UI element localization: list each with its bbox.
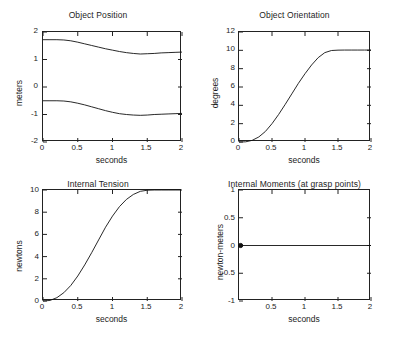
y-tick-label: -1 bbox=[19, 109, 38, 118]
x-tick-label: 2 bbox=[173, 302, 189, 311]
y-tick-label: 12 bbox=[216, 26, 235, 35]
x-tick-label: 1.5 bbox=[135, 302, 157, 311]
x-tick-label: 1.5 bbox=[326, 302, 348, 311]
x-tick-label: 0 bbox=[230, 143, 246, 152]
origin-marker bbox=[239, 243, 243, 247]
subplot-object-orientation: Object Orientation degrees 12 10 8 6 4 2… bbox=[196, 10, 393, 168]
series-curve-orientation bbox=[239, 50, 371, 142]
y-tick-label: 4 bbox=[23, 252, 39, 261]
y-axis-ticks bbox=[239, 32, 371, 142]
x-tick-label: 1.5 bbox=[326, 143, 348, 152]
plot-area bbox=[238, 189, 370, 300]
x-axis-label: seconds bbox=[42, 314, 181, 324]
x-tick-label: 0.5 bbox=[66, 302, 88, 311]
y-axis-ticks bbox=[43, 190, 182, 301]
x-tick-label: 2 bbox=[362, 143, 378, 152]
y-axis-label: degrees bbox=[210, 67, 220, 119]
y-tick-label: 10 bbox=[216, 44, 235, 53]
x-tick-label: 0.5 bbox=[260, 143, 282, 152]
x-axis-label: seconds bbox=[238, 314, 370, 324]
x-axis-label: seconds bbox=[42, 155, 181, 165]
plot-svg bbox=[43, 32, 182, 142]
y-tick-label: 2 bbox=[23, 274, 39, 283]
x-tick-label: 1 bbox=[104, 302, 120, 311]
y-tick-label: 4 bbox=[219, 99, 235, 108]
y-tick-label: 8 bbox=[219, 63, 235, 72]
x-axis-label: seconds bbox=[238, 155, 370, 165]
plot-svg bbox=[43, 190, 182, 301]
y-tick-label: 2 bbox=[22, 26, 38, 35]
x-tick-label: 2 bbox=[173, 143, 189, 152]
x-tick-label: 1.5 bbox=[135, 143, 157, 152]
x-tick-label: 2 bbox=[362, 302, 378, 311]
y-tick-label: 0 bbox=[22, 81, 38, 90]
y-tick-label: 2 bbox=[219, 118, 235, 127]
plot-area bbox=[42, 31, 181, 141]
x-tick-label: 0 bbox=[34, 302, 50, 311]
x-tick-label: 0.5 bbox=[260, 302, 282, 311]
subplot-internal-moments: Internal Moments (at grasp points) newto… bbox=[196, 179, 393, 337]
series-curve-lower bbox=[43, 101, 182, 116]
y-tick-label: -1 bbox=[216, 296, 235, 305]
y-axis-label: newton-meters bbox=[215, 213, 225, 291]
x-tick-label: 0.5 bbox=[66, 143, 88, 152]
y-tick-label: 6 bbox=[23, 229, 39, 238]
subplot-title: Object Orientation bbox=[196, 10, 393, 20]
y-tick-label: 0 bbox=[219, 241, 235, 250]
series-curve-upper bbox=[43, 40, 182, 54]
x-axis-ticks bbox=[239, 32, 371, 142]
x-axis-ticks bbox=[43, 32, 182, 142]
y-tick-label: 0.5 bbox=[213, 213, 235, 222]
plot-area bbox=[238, 31, 370, 141]
plot-svg bbox=[239, 32, 371, 142]
plot-svg bbox=[239, 190, 371, 301]
x-tick-label: 0 bbox=[34, 143, 50, 152]
y-tick-label: 6 bbox=[219, 81, 235, 90]
subplot-internal-tension: Internal Tension newtons 10 8 6 4 2 0 bbox=[0, 179, 196, 337]
y-axis-ticks bbox=[43, 32, 182, 142]
y-tick-label: 10 bbox=[20, 185, 39, 194]
subplot-object-position: Object Position meters 2 1 0 -1 -2 bbox=[0, 10, 196, 168]
y-tick-label: 1 bbox=[22, 54, 38, 63]
y-tick-label: 8 bbox=[23, 207, 39, 216]
series-curve-tension bbox=[43, 190, 182, 301]
x-tick-label: 1 bbox=[296, 143, 312, 152]
y-tick-label: -0.5 bbox=[210, 268, 235, 277]
x-tick-label: 1 bbox=[296, 302, 312, 311]
figure-canvas: Object Position meters 2 1 0 -1 -2 bbox=[0, 0, 393, 337]
y-tick-label: 1 bbox=[219, 185, 235, 194]
subplot-title: Object Position bbox=[0, 10, 196, 20]
plot-area bbox=[42, 189, 181, 300]
x-tick-label: 1 bbox=[104, 143, 120, 152]
x-axis-ticks bbox=[43, 190, 182, 301]
